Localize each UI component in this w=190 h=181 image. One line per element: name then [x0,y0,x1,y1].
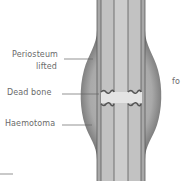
label-periosteum: Periosteum [12,50,58,59]
label-dead-bone: Dead bone [7,88,51,97]
medullary-canal [114,0,128,181]
label-lifted: lifted [36,62,57,71]
label-cutoff: fo [172,77,180,86]
label-haemotoma: Haemotoma [5,119,55,128]
